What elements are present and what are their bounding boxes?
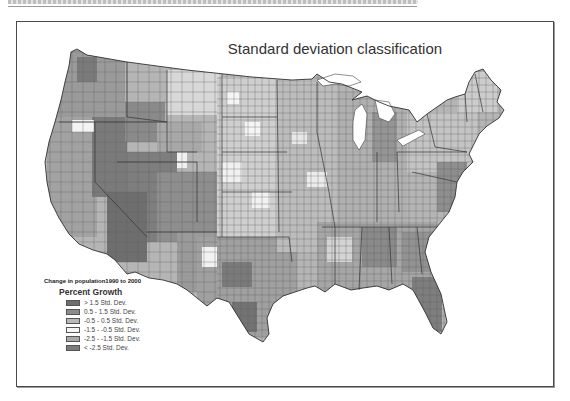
legend-label: -0.5 - 0.5 Std. Dev. (84, 317, 138, 324)
caption-rule (8, 6, 417, 7)
legend-label: 0.5 - 1.5 Std. Dev. (84, 308, 136, 315)
legend-item: -2.5 - -1.5 Std. Dev. (66, 334, 141, 343)
legend-swatch (66, 318, 80, 324)
legend-swatch (66, 336, 80, 342)
legend-label: -2.5 - -1.5 Std. Dev. (84, 335, 140, 342)
legend-swatch (66, 345, 80, 351)
legend-item: < -2.5 Std. Dev. (66, 343, 141, 352)
legend-label: > 1.5 Std. Dev. (84, 299, 127, 306)
map-frame: Standard deviation classification Change… (16, 21, 554, 387)
map-title: Standard deviation classification (17, 40, 553, 57)
map-legend: Change in population1990 to 2000 Percent… (44, 278, 141, 352)
legend-swatch (66, 300, 80, 306)
legend-label: < -2.5 Std. Dev. (84, 344, 129, 351)
legend-item: > 1.5 Std. Dev. (66, 298, 141, 307)
legend-item: -1.5 - -0.5 Std. Dev. (66, 325, 141, 334)
legend-caption: Change in population1990 to 2000 (44, 278, 141, 284)
legend-item: 0.5 - 1.5 Std. Dev. (66, 307, 141, 316)
lake-superior (317, 74, 361, 86)
legend-item: -0.5 - 0.5 Std. Dev. (66, 316, 141, 325)
legend-heading: Percent Growth (59, 287, 141, 297)
legend-swatch (66, 309, 80, 315)
legend-label: -1.5 - -0.5 Std. Dev. (84, 326, 140, 333)
legend-swatch (66, 327, 80, 333)
